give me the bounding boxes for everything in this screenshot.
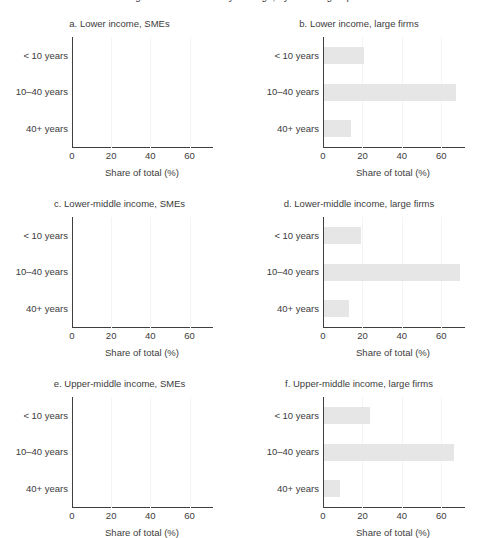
- bar-row: 40+ years: [324, 110, 465, 147]
- bar-row: 40+ years: [73, 110, 213, 147]
- y-tick-label: 40+ years: [277, 484, 319, 494]
- x-tick-label: 20: [106, 510, 117, 521]
- x-tick-label: 40: [397, 510, 408, 521]
- x-tick-label: 60: [184, 150, 195, 161]
- panel-f-plot: < 10 years 10–40 years 40+ years 0204060…: [323, 397, 465, 508]
- x-tick-label: 0: [69, 330, 74, 341]
- y-tick-label: < 10 years: [274, 411, 319, 421]
- y-tick-label: 40+ years: [277, 124, 319, 134]
- bar-row: 10–40 years: [73, 254, 213, 291]
- x-tick-label: 60: [184, 330, 195, 341]
- panel-d: d. Lower-middle income, large firms < 10…: [239, 188, 479, 368]
- bar-row: < 10 years: [324, 37, 465, 74]
- bar: [324, 84, 456, 101]
- panel-c-plot: < 10 years 10–40 years 40+ years 0204060…: [72, 217, 213, 328]
- panel-f-title: f. Upper-middle income, large firms: [239, 378, 479, 389]
- x-tick-label: 0: [69, 150, 74, 161]
- x-tick-label: 20: [106, 150, 117, 161]
- x-tick-label: 0: [320, 510, 325, 521]
- y-tick-label: < 10 years: [23, 51, 68, 61]
- panel-a: a. Lower income, SMEs < 10 years 10–40 y…: [0, 8, 239, 188]
- panel-a-plot: < 10 years 10–40 years 40+ years 0204060…: [72, 37, 213, 148]
- bar-row: < 10 years: [324, 397, 465, 434]
- bar: [324, 444, 454, 461]
- y-tick-label: 40+ years: [277, 304, 319, 314]
- panel-c-title: c. Lower-middle income, SMEs: [0, 198, 239, 209]
- bar-row: 40+ years: [73, 470, 213, 507]
- bar: [324, 120, 351, 137]
- y-tick-label: 40+ years: [26, 484, 68, 494]
- panel-b-x-label: Share of total (%): [283, 167, 479, 178]
- panel-b-x-axis: [323, 147, 465, 148]
- panel-a-x-label: Share of total (%): [32, 167, 252, 178]
- y-tick-label: < 10 years: [23, 231, 68, 241]
- bar-row: < 10 years: [324, 217, 465, 254]
- panel-grid: a. Lower income, SMEs < 10 years 10–40 y…: [0, 8, 479, 535]
- panel-d-x-label: Share of total (%): [283, 347, 479, 358]
- x-tick-label: 40: [397, 330, 408, 341]
- x-tick-label: 20: [357, 510, 368, 521]
- panel-b-x-ticks: 0204060: [323, 150, 465, 164]
- panel-d-x-ticks: 0204060: [323, 330, 465, 344]
- bar-row: < 10 years: [73, 217, 213, 254]
- panel-e-x-ticks: 0204060: [72, 510, 213, 524]
- bar-row: < 10 years: [73, 397, 213, 434]
- bar: [324, 227, 361, 244]
- x-tick-label: 60: [436, 330, 447, 341]
- panel-c-rows: < 10 years 10–40 years 40+ years: [73, 217, 213, 327]
- bar-row: 40+ years: [73, 290, 213, 327]
- panel-e: e. Upper-middle income, SMEs < 10 years …: [0, 368, 239, 535]
- x-tick-label: 60: [184, 510, 195, 521]
- x-tick-label: 0: [320, 330, 325, 341]
- y-tick-label: < 10 years: [23, 411, 68, 421]
- panel-a-x-ticks: 0204060: [72, 150, 213, 164]
- x-tick-label: 20: [106, 330, 117, 341]
- bar-row: < 10 years: [73, 37, 213, 74]
- x-tick-label: 60: [436, 150, 447, 161]
- bar-row: 40+ years: [324, 470, 465, 507]
- panel-a-title: a. Lower income, SMEs: [0, 18, 239, 29]
- x-tick-label: 40: [145, 150, 156, 161]
- x-tick-label: 20: [357, 150, 368, 161]
- x-tick-label: 0: [69, 510, 74, 521]
- x-tick-label: 60: [436, 510, 447, 521]
- bar-row: 10–40 years: [324, 74, 465, 111]
- panel-c: c. Lower-middle income, SMEs < 10 years …: [0, 188, 239, 368]
- y-tick-label: < 10 years: [274, 51, 319, 61]
- figure-suptitle: Figure. Share of total by firm age, by i…: [0, 0, 479, 2]
- y-tick-label: 40+ years: [26, 124, 68, 134]
- panel-f-x-label: Share of total (%): [283, 527, 479, 538]
- panel-b: b. Lower income, large firms < 10 years …: [239, 8, 479, 188]
- bar-row: 10–40 years: [324, 254, 465, 291]
- y-tick-label: 10–40 years: [267, 447, 319, 457]
- panel-c-x-axis: [72, 327, 213, 328]
- x-tick-label: 40: [397, 150, 408, 161]
- x-tick-label: 40: [145, 510, 156, 521]
- bar: [324, 300, 349, 317]
- panel-a-rows: < 10 years 10–40 years 40+ years: [73, 37, 213, 147]
- y-tick-label: 10–40 years: [267, 87, 319, 97]
- panel-b-title: b. Lower income, large firms: [239, 18, 479, 29]
- y-tick-label: 10–40 years: [16, 267, 68, 277]
- panel-d-x-axis: [323, 327, 465, 328]
- y-tick-label: 10–40 years: [16, 87, 68, 97]
- panel-f: f. Upper-middle income, large firms < 10…: [239, 368, 479, 535]
- y-tick-label: 40+ years: [26, 304, 68, 314]
- panel-e-x-axis: [72, 507, 213, 508]
- bar: [324, 480, 340, 497]
- y-tick-label: 10–40 years: [16, 447, 68, 457]
- panel-a-x-axis: [72, 147, 213, 148]
- panel-d-title: d. Lower-middle income, large firms: [239, 198, 479, 209]
- panel-f-rows: < 10 years 10–40 years 40+ years: [324, 397, 465, 507]
- y-tick-label: 10–40 years: [267, 267, 319, 277]
- panel-e-plot: < 10 years 10–40 years 40+ years 0204060…: [72, 397, 213, 508]
- panel-f-x-axis: [323, 507, 465, 508]
- bar: [324, 47, 364, 64]
- x-tick-label: 20: [357, 330, 368, 341]
- y-tick-label: < 10 years: [274, 231, 319, 241]
- bar-row: 40+ years: [324, 290, 465, 327]
- bar-row: 10–40 years: [324, 434, 465, 471]
- panel-b-rows: < 10 years 10–40 years 40+ years: [324, 37, 465, 147]
- bar-row: 10–40 years: [73, 74, 213, 111]
